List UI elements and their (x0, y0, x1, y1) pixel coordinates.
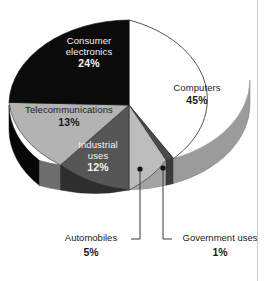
side-wall-government-uses (166, 159, 174, 186)
callout-label-government-uses: Government uses 1% (174, 232, 266, 259)
leader-dot-government-uses (160, 165, 165, 170)
callout-label-automobiles: Automobiles 5% (52, 232, 130, 259)
callout-label-automobiles-name: Automobiles (52, 232, 130, 244)
pie-slice-consumer-electronics (9, 20, 129, 105)
callout-label-government-uses-name: Government uses (174, 232, 266, 244)
pie-chart-figure: Consumer electronics 24% Telecommunicati… (0, 0, 269, 281)
callout-value-government-uses: 1% (174, 246, 266, 259)
leader-dot-automobiles (137, 166, 142, 171)
page-edge-line (257, 0, 258, 281)
callout-value-automobiles: 5% (52, 246, 130, 259)
side-wall-telecommunications (40, 161, 61, 190)
